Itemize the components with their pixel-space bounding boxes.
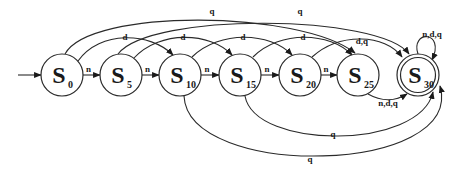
state-s30: S30	[397, 54, 439, 96]
state-letter: S	[111, 62, 124, 88]
transition-label: q	[330, 129, 335, 139]
state-subscript: 5	[127, 79, 132, 90]
state-diagram: S0S5S10S15S20S25S30 nnnnnddddd,qqqn,d,qq…	[0, 0, 474, 179]
state-s20: S20	[279, 54, 321, 96]
transition-label: n,d,q	[378, 98, 398, 108]
transition-label: n	[264, 64, 269, 74]
transition-label: q	[297, 6, 302, 16]
state-subscript: 0	[68, 79, 73, 90]
state-letter: S	[170, 62, 183, 88]
transition-label: d	[240, 32, 245, 42]
state-subscript: 30	[424, 79, 434, 90]
state-subscript: 20	[306, 79, 316, 90]
state-s10: S10	[159, 54, 201, 96]
state-subscript: 15	[246, 79, 256, 90]
state-subscript: 25	[364, 79, 374, 90]
state-letter: S	[52, 62, 65, 88]
state-s25: S25	[337, 54, 379, 96]
state-s15: S15	[219, 54, 261, 96]
state-letter: S	[290, 62, 303, 88]
state-s5: S5	[100, 54, 142, 96]
state-letter: S	[230, 62, 243, 88]
transition-label: d	[122, 32, 127, 42]
states-layer: S0S5S10S15S20S25S30	[41, 54, 439, 96]
transition-label: q	[307, 154, 312, 164]
transition-label: d	[180, 32, 185, 42]
transition-label: n	[323, 64, 328, 74]
transition-label: d,q	[356, 36, 368, 46]
state-letter: S	[348, 62, 361, 88]
transition-label: q	[209, 6, 214, 16]
transition-label: n	[145, 64, 150, 74]
transition-label: n	[86, 64, 91, 74]
transition-label: d	[300, 32, 305, 42]
state-s0: S0	[41, 54, 83, 96]
transition-label: n,d,q	[422, 29, 442, 39]
transition-label: n	[204, 64, 209, 74]
state-subscript: 10	[186, 79, 196, 90]
state-letter: S	[408, 62, 421, 88]
transition-s15-s30	[245, 92, 433, 136]
